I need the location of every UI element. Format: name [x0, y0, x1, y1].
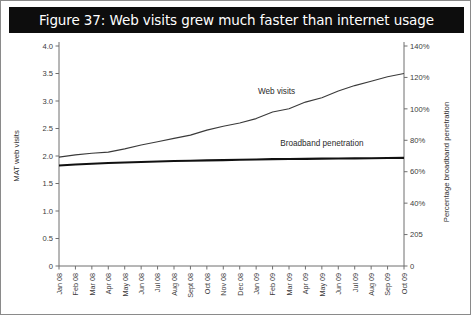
- y-axis-right-tick: 0: [410, 262, 414, 271]
- x-axis-tick-label: Mar 08: [88, 273, 97, 295]
- series-line: [59, 158, 404, 166]
- x-axis-tick-label: May 09: [318, 273, 327, 297]
- x-axis-tick-label: Sept 08: [186, 273, 195, 298]
- annotation-broadband-penetration: Broadband penetration: [280, 139, 364, 148]
- y-axis-left-tick: 1.5: [42, 179, 53, 188]
- y-axis-left-tick: 2.0: [42, 152, 53, 161]
- x-axis-tick-label: Feb 09: [268, 273, 277, 295]
- x-axis-tick-label: Apr 09: [301, 273, 310, 294]
- x-axis-tick-label: Jan 08: [55, 273, 64, 295]
- y-axis-left-tick: 1.0: [42, 207, 53, 216]
- line-chart: 00.51.01.52.02.53.03.54.0 020540%60%80%1…: [1, 33, 471, 315]
- y-axis-left-tick: 4.0: [42, 42, 53, 51]
- x-axis: Jan 08Feb 08Mar 08Apr 08May 08Jun 08Jul …: [55, 266, 409, 298]
- x-axis-tick-label: Oct 08: [203, 273, 212, 294]
- y-axis-right-tick: 60%: [410, 167, 425, 176]
- y-axis-right-tick: 40%: [410, 199, 425, 208]
- x-axis-tick-label: Aug 08: [170, 273, 179, 296]
- x-axis-tick-label: Jun 09: [334, 273, 343, 295]
- y-axis-left-tick: 3.5: [42, 69, 53, 78]
- series-annotations: Web visitsBroadband penetration: [258, 87, 364, 148]
- x-axis-tick-label: Mar 09: [285, 273, 294, 295]
- page-title: Figure 37: Web visits grew much faster t…: [39, 12, 434, 28]
- annotation-web-visits: Web visits: [258, 87, 295, 96]
- y-axis-left-tick: 0.5: [42, 234, 53, 243]
- y-axis-left-tick: 3.0: [42, 97, 53, 106]
- y-axis-right: 020540%60%80%100%120%140%: [404, 42, 430, 271]
- x-axis-tick-label: Oct 09: [400, 273, 409, 294]
- y-axis-right-tick: 100%: [410, 105, 430, 114]
- x-axis-tick-label: Aug 09: [367, 273, 376, 296]
- figure-container: Figure 37: Web visits grew much faster t…: [0, 0, 471, 315]
- y-axis-left-tick: 0: [49, 262, 53, 271]
- y-axis-right-tick: 120%: [410, 73, 430, 82]
- x-axis-tick-label: Jan 09: [252, 273, 261, 295]
- chart-plot-area: 00.51.01.52.02.53.03.54.0 020540%60%80%1…: [1, 33, 471, 315]
- x-axis-tick-label: Jun 08: [137, 273, 146, 295]
- x-axis-tick-label: Apr 08: [104, 273, 113, 294]
- y-axis-left: 00.51.01.52.02.53.03.54.0: [42, 42, 59, 271]
- y-axis-right-tick: 205: [410, 230, 423, 239]
- y-axis-left-title: MAT web visits: [12, 130, 21, 182]
- x-axis-tick-label: Sep 09: [383, 273, 392, 296]
- x-axis-tick-label: Jul 08: [153, 273, 162, 292]
- y-axis-right-tick: 140%: [410, 42, 430, 51]
- x-axis-tick-label: Jul 09: [351, 273, 360, 292]
- series-lines: [59, 74, 404, 166]
- y-axis-right-title: Percentage broadband penetration: [442, 102, 451, 223]
- x-axis-tick-label: Feb 08: [71, 273, 80, 295]
- y-axis-right-tick: 80%: [410, 136, 425, 145]
- y-axis-left-tick: 2.5: [42, 124, 53, 133]
- x-axis-tick-label: Dec 08: [236, 273, 245, 296]
- x-axis-tick-label: May 08: [121, 273, 130, 297]
- x-axis-tick-label: Nov 08: [219, 273, 228, 296]
- figure-title-bar: Figure 37: Web visits grew much faster t…: [9, 7, 464, 33]
